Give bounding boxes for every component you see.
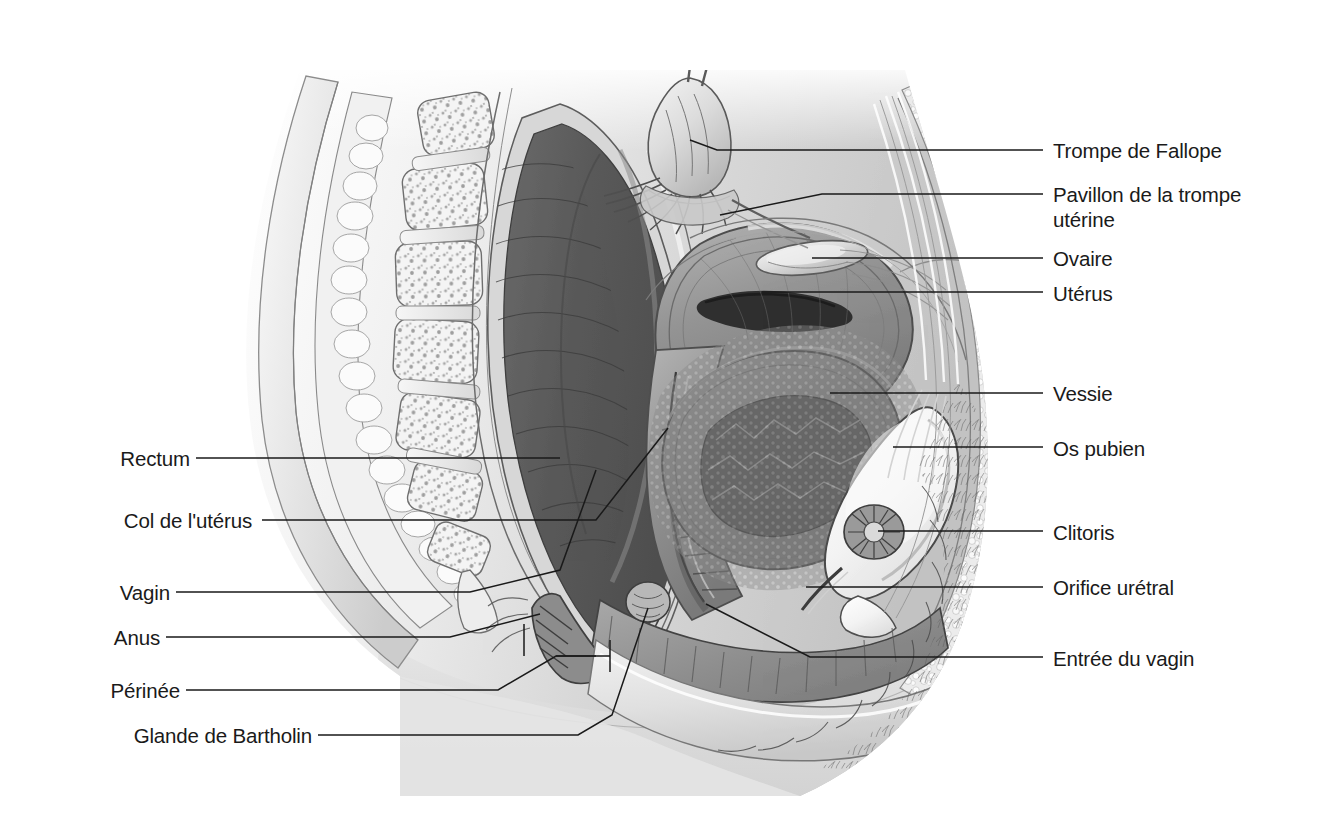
figure-root: a) Vue sagittale (0, 0, 1319, 832)
label-vessie: Vessie (1053, 381, 1113, 406)
label-ovaire: Ovaire (1053, 246, 1112, 271)
label-uterus: Utérus (1053, 281, 1112, 306)
label-perinee: Périnée (0, 678, 180, 703)
clitoris (844, 505, 904, 559)
label-col-de-luterus: Col de l'utérus (0, 508, 252, 533)
bartholin-gland (626, 582, 670, 622)
label-trompe-de-fallope: Trompe de Fallope (1053, 138, 1222, 163)
sagittal-anatomy-illustration (0, 0, 1319, 832)
label-orifice-uretral: Orifice urétral (1053, 575, 1174, 600)
label-glande-de-bartholin: Glande de Bartholin (0, 723, 312, 748)
label-clitoris: Clitoris (1053, 520, 1114, 545)
label-os-pubien: Os pubien (1053, 436, 1145, 461)
label-anus: Anus (0, 625, 160, 650)
label-vagin: Vagin (0, 580, 170, 605)
label-pavillon-de-la-trompe-uterine: Pavillon de la trompe utérine (1053, 182, 1241, 232)
label-rectum: Rectum (0, 446, 190, 471)
label-entree-du-vagin: Entrée du vagin (1053, 646, 1194, 671)
